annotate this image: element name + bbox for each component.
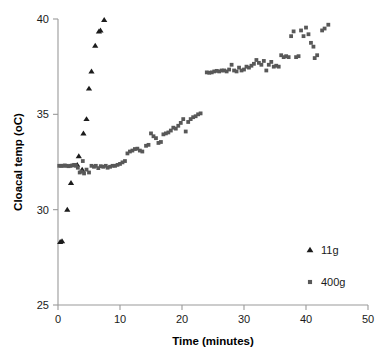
- x-tick-label: 40: [300, 313, 312, 325]
- square-marker-icon: [287, 55, 291, 59]
- triangle-marker-icon: [92, 43, 98, 48]
- x-tick-label: 30: [238, 313, 250, 325]
- triangle-marker-icon: [83, 116, 89, 121]
- square-marker-icon: [159, 140, 163, 144]
- square-marker-icon: [235, 70, 239, 74]
- square-marker-icon: [269, 60, 273, 64]
- square-marker-icon: [154, 136, 158, 140]
- square-marker-icon: [326, 23, 330, 27]
- square-marker-icon: [81, 159, 85, 163]
- data-points-group: [57, 17, 330, 244]
- square-marker-icon: [87, 171, 91, 175]
- square-marker-icon: [181, 117, 185, 121]
- square-marker-icon: [262, 59, 266, 63]
- square-marker-icon: [308, 280, 312, 284]
- square-marker-icon: [307, 32, 311, 36]
- square-marker-icon: [289, 34, 293, 38]
- square-marker-icon: [230, 63, 234, 67]
- square-marker-icon: [82, 172, 86, 176]
- series-11g: [57, 17, 107, 244]
- triangle-marker-icon: [86, 86, 92, 91]
- square-marker-icon: [297, 54, 301, 58]
- square-marker-icon: [299, 29, 303, 33]
- legend-label-11g: 11g: [321, 244, 339, 256]
- square-marker-icon: [304, 26, 308, 30]
- x-tick-label: 0: [55, 313, 61, 325]
- x-tick-label: 50: [362, 313, 374, 325]
- series-400g: [57, 23, 330, 176]
- square-marker-icon: [277, 65, 281, 69]
- square-marker-icon: [227, 68, 231, 72]
- square-marker-icon: [252, 62, 256, 66]
- square-marker-icon: [179, 121, 183, 125]
- square-marker-icon: [259, 63, 263, 67]
- triangle-marker-icon: [64, 207, 70, 212]
- x-axis-title: Time (minutes): [172, 335, 254, 347]
- triangle-marker-icon: [307, 247, 314, 252]
- y-tick-label: 30: [37, 204, 49, 216]
- y-axis-title: Cloacal temp (oC): [12, 113, 24, 211]
- axis-labels-group: 2530354001020304050Time (minutes)Cloacal…: [12, 13, 374, 347]
- legend-label-400g: 400g: [321, 276, 345, 288]
- square-marker-icon: [199, 111, 203, 115]
- y-tick-label: 40: [37, 13, 49, 25]
- scatter-chart-figure: 2530354001020304050Time (minutes)Cloacal…: [0, 0, 389, 361]
- triangle-marker-icon: [76, 153, 82, 158]
- square-marker-icon: [315, 53, 319, 57]
- triangle-marker-icon: [68, 180, 74, 185]
- x-tick-label: 20: [176, 313, 188, 325]
- triangle-marker-icon: [101, 17, 107, 22]
- plot-canvas: 2530354001020304050Time (minutes)Cloacal…: [0, 0, 389, 361]
- triangle-marker-icon: [80, 130, 86, 135]
- square-marker-icon: [292, 30, 296, 34]
- square-marker-icon: [264, 69, 268, 73]
- x-tick-label: 10: [114, 313, 126, 325]
- square-marker-icon: [140, 150, 144, 154]
- square-marker-icon: [312, 45, 316, 49]
- y-tick-label: 35: [37, 108, 49, 120]
- chart-legend: 11g400g: [307, 244, 346, 288]
- square-marker-icon: [123, 159, 127, 163]
- triangle-marker-icon: [88, 68, 94, 73]
- square-marker-icon: [184, 130, 188, 134]
- square-marker-icon: [147, 143, 151, 147]
- y-tick-label: 25: [37, 299, 49, 311]
- square-marker-icon: [323, 27, 327, 31]
- square-marker-icon: [302, 34, 306, 38]
- square-marker-icon: [309, 41, 313, 45]
- square-marker-icon: [76, 166, 80, 170]
